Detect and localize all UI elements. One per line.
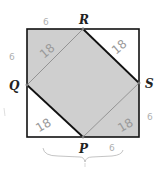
side-mark-top: 6: [43, 17, 49, 27]
stray-mark-left: [4, 108, 5, 116]
side-mark-bottom: 6: [109, 143, 115, 153]
vertex-q: [26, 84, 29, 87]
label-p: P: [78, 142, 89, 156]
vertex-s: [138, 82, 141, 85]
diagram-canvas: R S Q P 18 18 18 18 6 6 6 6: [0, 0, 160, 170]
label-q: Q: [9, 79, 20, 93]
triangle-label-top-right: 18: [109, 37, 130, 58]
triangle-label-bottom-left: 18: [33, 115, 53, 135]
vertex-r: [82, 28, 85, 31]
label-s: S: [145, 77, 154, 91]
vertex-p: [82, 136, 85, 139]
side-mark-left: 6: [9, 52, 15, 62]
label-r: R: [78, 13, 89, 27]
side-mark-right: 6: [147, 112, 153, 122]
